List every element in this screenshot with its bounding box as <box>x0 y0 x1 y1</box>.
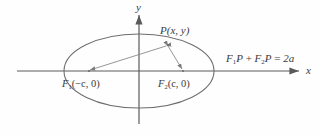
focus-1-subscript: 1 <box>68 83 71 90</box>
y-axis-label: y <box>136 2 141 13</box>
equation-f1-subscript: 1 <box>233 58 236 65</box>
focus-1-coordinates: (−c, 0) <box>72 78 100 89</box>
ellipse-sum-equation: F1P + F2P = 2a <box>226 53 294 64</box>
ellipse-figure: y x P(x, y) F1(−c, 0) F2(c, 0) F1P + F2P… <box>0 0 319 135</box>
focus-2-subscript: 2 <box>164 83 167 90</box>
equation-equals-sign: = <box>271 52 283 64</box>
focus-2-label: F2(c, 0) <box>158 79 190 90</box>
diagram-canvas <box>0 0 319 135</box>
point-p-marker <box>167 44 169 46</box>
focus-1-label: F1(−c, 0) <box>62 79 100 90</box>
focus-2-coordinates: (c, 0) <box>168 78 190 89</box>
focus-1-point <box>88 70 90 72</box>
equation-p1: P <box>236 52 243 64</box>
segment-p-to-f1 <box>90 46 166 70</box>
equation-f1: F <box>226 52 233 64</box>
equation-plus-sign: + <box>243 52 255 64</box>
point-p-label: P(x, y) <box>160 25 189 36</box>
equation-f2-subscript: 2 <box>261 58 264 65</box>
x-axis-label: x <box>306 65 311 76</box>
segment-p-to-f2 <box>168 46 182 69</box>
equation-right-side: 2a <box>283 52 294 64</box>
focus-2-point <box>182 70 184 72</box>
